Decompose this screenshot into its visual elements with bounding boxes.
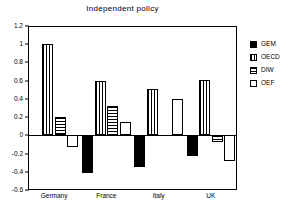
y-axis-tick-label: 0	[19, 132, 23, 139]
legend-item-gem[interactable]: GEM	[250, 38, 296, 51]
bar-group-uk	[185, 26, 237, 190]
x-axis: GermanyFranceItalyUK	[28, 193, 237, 207]
legend-swatch-diw-icon	[250, 67, 257, 74]
legend: GEMOECDDIWOEF	[250, 38, 296, 90]
y-axis-tick-label: -0.2	[12, 150, 23, 157]
x-axis-tick-label-germany: Germany	[41, 193, 68, 200]
bar-uk-oef	[224, 135, 235, 161]
bar-germany-diw	[55, 117, 66, 135]
bar-group-italy	[133, 26, 185, 190]
legend-label: GEM	[261, 41, 276, 48]
legend-item-oecd[interactable]: OECD	[250, 51, 296, 64]
legend-label: DIW	[261, 67, 274, 74]
bar-uk-diw	[212, 135, 223, 141]
bar-germany-oecd	[42, 44, 53, 135]
x-axis-tick-label-italy: Italy	[153, 193, 165, 200]
bar-italy-oecd	[147, 89, 158, 135]
legend-swatch-oef-icon	[250, 80, 257, 87]
bar-france-gem	[82, 135, 93, 172]
bar-france-oecd	[95, 81, 106, 136]
x-axis-tick-label-uk: UK	[206, 193, 215, 200]
y-axis-tick-label: 0.6	[14, 77, 23, 84]
bar-group-germany	[28, 26, 80, 190]
bar-france-oef	[120, 122, 131, 136]
y-axis-tick-label: 1	[19, 41, 23, 48]
y-axis-tick-label: 0.2	[14, 114, 23, 121]
y-axis-tick-label: 0.8	[14, 59, 23, 66]
y-axis-tick-label: -0.6	[12, 187, 23, 194]
bar-italy-gem	[134, 135, 145, 167]
x-axis-tick-label-france: France	[96, 193, 116, 200]
bar-italy-oef	[172, 99, 183, 135]
bar-germany-oef	[67, 135, 78, 147]
y-axis-tick-label: 1.2	[14, 23, 23, 30]
legend-label: OEF	[261, 80, 274, 87]
y-axis: 1.210.80.60.40.20-0.2-0.4-0.6	[0, 26, 28, 190]
legend-swatch-oecd-icon	[250, 54, 257, 61]
legend-swatch-gem-icon	[250, 41, 257, 48]
y-axis-tick-label: -0.4	[12, 169, 23, 176]
bar-uk-gem	[187, 135, 198, 156]
bar-france-diw	[107, 106, 118, 135]
legend-item-diw[interactable]: DIW	[250, 64, 296, 77]
chart-title: Independent policy	[0, 4, 245, 13]
bar-group-france	[80, 26, 132, 190]
legend-item-oef[interactable]: OEF	[250, 77, 296, 90]
y-axis-tick-label: 0.4	[14, 96, 23, 103]
bar-uk-oecd	[199, 80, 210, 136]
bars-layer	[28, 26, 237, 190]
legend-label: OECD	[261, 54, 280, 61]
